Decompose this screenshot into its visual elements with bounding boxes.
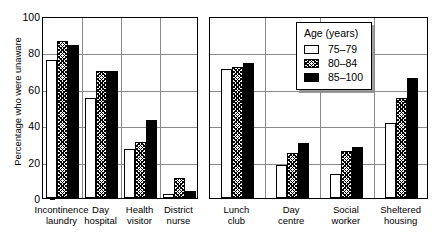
group-separator bbox=[82, 18, 83, 198]
bar-day-centre-75-79 bbox=[276, 165, 287, 198]
x-label-sheltered-housing: Shelteredhousing bbox=[365, 204, 436, 226]
bar-social-worker-80-84 bbox=[341, 151, 352, 198]
bar-lunch-club-85-100 bbox=[243, 63, 254, 198]
legend: Age (years) 75–7980–8485–100 bbox=[296, 22, 372, 90]
bar-social-worker-85-100 bbox=[352, 147, 363, 198]
y-tick-label-100: 100 bbox=[14, 12, 40, 23]
group-separator bbox=[374, 18, 375, 198]
bar-health-visitor-75-79 bbox=[124, 149, 135, 198]
legend-label: 85–100 bbox=[328, 71, 363, 83]
group-separator bbox=[160, 18, 161, 198]
bar-social-worker-75-79 bbox=[330, 174, 341, 198]
bar-health-visitor-85-100 bbox=[146, 120, 157, 198]
bar-health-visitor-80-84 bbox=[135, 142, 146, 198]
bar-incontinence-laundry-80-84 bbox=[57, 41, 68, 198]
bar-lunch-club-75-79 bbox=[221, 69, 232, 198]
bar-lunch-club-80-84 bbox=[232, 67, 243, 198]
x-label-line: housing bbox=[365, 215, 436, 226]
bar-incontinence-laundry-85-100 bbox=[68, 45, 79, 198]
bar-chart: Percentage who were unaware 020406080100… bbox=[0, 0, 442, 246]
y-tick-label-60: 60 bbox=[14, 85, 40, 96]
bar-day-hospital-85-100 bbox=[107, 71, 118, 198]
y-tick-mark-0 bbox=[50, 199, 55, 200]
x-label-line: nurse bbox=[151, 215, 206, 226]
y-tick-label-80: 80 bbox=[14, 48, 40, 59]
legend-entry-75-79: 75–79 bbox=[304, 42, 363, 56]
bar-district-nurse-85-100 bbox=[185, 191, 196, 198]
legend-swatch-icon bbox=[304, 59, 319, 68]
y-tick-label-20: 20 bbox=[14, 157, 40, 168]
x-label-line: Sheltered bbox=[365, 204, 436, 215]
bar-day-centre-80-84 bbox=[287, 153, 298, 199]
bar-sheltered-housing-85-100 bbox=[407, 78, 418, 198]
legend-swatch-icon bbox=[304, 45, 319, 54]
bar-district-nurse-80-84 bbox=[174, 178, 185, 198]
bar-incontinence-laundry-75-79 bbox=[46, 60, 57, 198]
bar-district-nurse-75-79 bbox=[163, 194, 174, 198]
y-tick-label-0: 0 bbox=[14, 194, 40, 205]
bar-sheltered-housing-75-79 bbox=[385, 123, 396, 198]
legend-label: 75–79 bbox=[328, 43, 357, 55]
bar-day-centre-85-100 bbox=[298, 143, 309, 198]
bar-day-hospital-80-84 bbox=[96, 71, 107, 198]
x-label-line: District bbox=[151, 204, 206, 215]
legend-entries: 75–7980–8485–100 bbox=[304, 42, 363, 84]
x-label-district-nurse: Districtnurse bbox=[151, 204, 206, 226]
legend-entry-80-84: 80–84 bbox=[304, 56, 363, 70]
legend-entry-85-100: 85–100 bbox=[304, 70, 363, 84]
legend-label: 80–84 bbox=[328, 57, 357, 69]
legend-title: Age (years) bbox=[304, 27, 363, 39]
group-separator bbox=[121, 18, 122, 198]
legend-swatch-icon bbox=[304, 73, 319, 82]
y-tick-label-40: 40 bbox=[14, 121, 40, 132]
group-separator bbox=[265, 18, 266, 198]
chart-panel-left bbox=[42, 17, 198, 199]
bar-sheltered-housing-80-84 bbox=[396, 98, 407, 198]
bar-day-hospital-75-79 bbox=[85, 98, 96, 198]
